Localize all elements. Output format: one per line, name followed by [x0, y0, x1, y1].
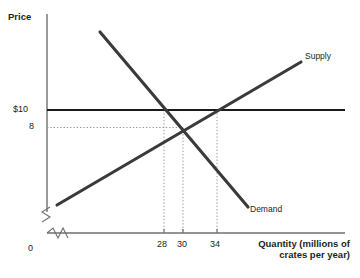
demand-curve — [100, 32, 248, 207]
x-axis-title-line1: Quantity (millions of — [258, 238, 350, 249]
chart-canvas — [0, 0, 360, 278]
origin-label: 0 — [28, 243, 33, 253]
supply-curve-label: Supply — [305, 52, 331, 62]
supply-demand-chart: Price Quantity (millions ofcrates per ye… — [0, 0, 360, 278]
y-axis-title: Price — [8, 12, 31, 23]
demand-curve-label: Demand — [250, 205, 282, 215]
y-tick-label-8: 8 — [29, 121, 34, 131]
y-tick-label-10: $10 — [13, 104, 28, 114]
x-tick-label-28: 28 — [157, 239, 167, 249]
x-axis-title: Quantity (millions ofcrates per year) — [238, 239, 350, 261]
supply-curve — [57, 62, 301, 205]
x-tick-label-30: 30 — [177, 239, 187, 249]
x-axis-title-line2: crates per year) — [279, 249, 350, 260]
y-axis-break-icon — [42, 207, 50, 222]
x-tick-label-34: 34 — [210, 239, 220, 249]
